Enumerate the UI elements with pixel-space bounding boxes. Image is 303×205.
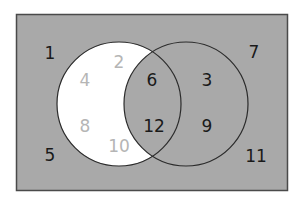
label-4: 4 [80,70,91,90]
label-7: 7 [249,42,260,62]
label-5: 5 [45,145,56,165]
label-10: 10 [108,136,130,156]
label-2: 2 [114,52,125,72]
label-8: 8 [80,116,91,136]
label-3: 3 [202,70,213,90]
label-1: 1 [45,43,56,63]
label-12: 12 [143,116,165,136]
label-9: 9 [202,116,213,136]
label-11: 11 [245,146,267,166]
venn-diagram: 1 2 4 6 3 7 8 12 9 10 5 11 [0,0,303,205]
label-6: 6 [147,70,158,90]
